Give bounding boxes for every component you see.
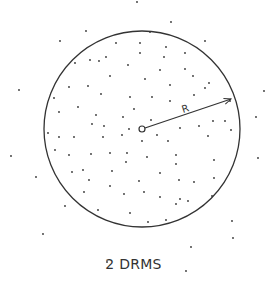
scatter-dot (123, 193, 125, 195)
scatter-dot (213, 177, 215, 179)
scatter-dot (193, 94, 195, 96)
scatter-dot (204, 87, 206, 89)
scatter-dot (109, 185, 111, 187)
scatter-dot (169, 84, 171, 86)
scatter-dot (90, 153, 92, 155)
scatter-dot (146, 156, 148, 158)
scatter-dot (136, 1, 138, 3)
scatter-dot (159, 69, 161, 71)
scatter-dot (212, 120, 214, 122)
scatter-dot (179, 198, 181, 200)
scatter-dot (207, 135, 209, 137)
scatter-dot (115, 42, 117, 44)
scatter-dot (95, 114, 97, 116)
scatter-dot (68, 86, 70, 88)
scatter-dot (10, 155, 12, 157)
scatter-dot (184, 52, 186, 54)
scatter-dot (150, 119, 152, 121)
scatter-dot (167, 140, 169, 142)
scatter-dot (64, 205, 66, 207)
scatter-dot (143, 191, 145, 193)
scatter-dot (193, 181, 195, 183)
scatter-points (10, 1, 265, 272)
scatter-dot (147, 221, 149, 223)
scatter-dot (165, 46, 167, 48)
scatter-dot (190, 246, 192, 248)
scatter-dot (208, 82, 210, 84)
scatter-dot (128, 128, 130, 130)
scatter-dot (59, 40, 61, 42)
scatter-dot (257, 157, 259, 159)
scatter-dot (82, 169, 84, 171)
scatter-dot (47, 132, 49, 134)
scatter-dot (54, 149, 56, 151)
scatter-dot (229, 100, 231, 102)
scatter-dot (169, 100, 171, 102)
scatter-dot (263, 90, 265, 92)
scatter-dot (156, 134, 158, 136)
scatter-dot (125, 161, 127, 163)
scatter-dot (159, 196, 161, 198)
scatter-dot (109, 152, 111, 154)
scatter-dot (91, 123, 93, 125)
scatter-dot (42, 233, 44, 235)
radius-label: R (180, 102, 190, 115)
scatter-dot (102, 136, 104, 138)
drms-diagram: R (0, 0, 267, 300)
scatter-dot (111, 170, 113, 172)
scatter-dot (178, 179, 180, 181)
scatter-dot (88, 179, 90, 181)
scatter-dot (159, 172, 161, 174)
scatter-dot (105, 56, 107, 58)
scatter-dot (163, 56, 165, 58)
scatter-dot (71, 171, 73, 173)
diagram-caption: 2 DRMS (0, 256, 267, 272)
scatter-dot (151, 96, 153, 98)
scatter-dot (144, 78, 146, 80)
scatter-dot (138, 180, 140, 182)
scatter-dot (98, 60, 100, 62)
scatter-dot (255, 116, 257, 118)
scatter-dot (231, 220, 233, 222)
scatter-dot (83, 191, 85, 193)
scatter-dot (127, 64, 129, 66)
scatter-dot (175, 203, 177, 205)
scatter-dot (85, 30, 87, 32)
scatter-dot (89, 59, 91, 61)
scatter-dot (213, 159, 215, 161)
scatter-dot (100, 93, 102, 95)
scatter-dot (87, 85, 89, 87)
scatter-dot (103, 125, 105, 127)
scatter-dot (58, 136, 60, 138)
scatter-dot (126, 152, 128, 154)
scatter-dot (139, 42, 141, 44)
scatter-dot (141, 140, 143, 142)
center-point (139, 126, 145, 132)
scatter-dot (175, 163, 177, 165)
scatter-dot (121, 134, 123, 136)
scatter-dot (192, 75, 194, 77)
scatter-dot (230, 129, 232, 131)
scatter-dot (97, 209, 99, 211)
scatter-dot (58, 111, 60, 113)
scatter-dot (74, 62, 76, 64)
scatter-dot (133, 108, 135, 110)
scatter-dot (224, 120, 226, 122)
scatter-dot (77, 106, 79, 108)
scatter-dot (129, 96, 131, 98)
radius-arrow (145, 99, 231, 128)
scatter-dot (175, 154, 177, 156)
scatter-dot (204, 40, 206, 42)
scatter-dot (232, 237, 234, 239)
scatter-dot (139, 52, 141, 54)
scatter-dot (129, 212, 131, 214)
scatter-dot (122, 116, 124, 118)
scatter-dot (109, 75, 111, 77)
scatter-dot (73, 136, 75, 138)
scatter-dot (170, 21, 172, 23)
scatter-dot (179, 127, 181, 129)
scatter-dot (198, 125, 200, 127)
scatter-dot (184, 68, 186, 70)
scatter-dot (165, 219, 167, 221)
scatter-dot (68, 154, 70, 156)
